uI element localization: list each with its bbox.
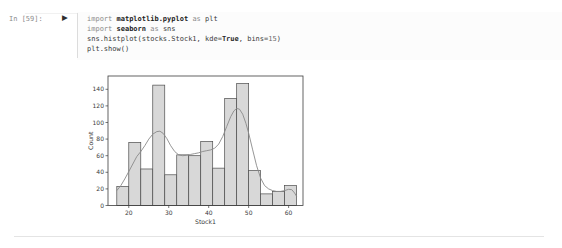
histogram-bar — [129, 142, 141, 205]
code-line: import seaborn as sns — [87, 24, 281, 34]
histogram-bar — [117, 186, 129, 205]
code-cell-left-border — [77, 13, 78, 58]
y-tick-label: 80 — [96, 135, 104, 142]
x-tick-label: 40 — [205, 209, 213, 216]
y-tick-label: 120 — [93, 102, 105, 109]
histogram-bar — [213, 168, 225, 205]
x-tick-label: 50 — [245, 209, 253, 216]
y-tick-label: 60 — [96, 152, 104, 159]
code-line: plt.show() — [87, 44, 281, 54]
y-tick-label: 0 — [100, 202, 104, 209]
histogram-bar — [273, 191, 285, 205]
y-tick-label: 20 — [96, 185, 104, 192]
histogram-bar — [177, 155, 189, 206]
x-axis-label: Stock1 — [195, 218, 216, 225]
histogram-bar — [141, 169, 153, 206]
histogram-bar — [153, 85, 165, 205]
histogram-bar — [261, 194, 273, 206]
histogram-bar — [225, 98, 237, 205]
code-line: import matplotlib.pyplot as plt — [87, 14, 281, 24]
cell-output-area: 2030405060020406080100120140Stock1Count — [85, 62, 315, 231]
histogram-bar — [237, 83, 249, 205]
histogram-bar — [285, 186, 297, 206]
code-line: sns.histplot(stocks.Stock1, kde=True, bi… — [87, 34, 281, 44]
y-tick-label: 100 — [93, 119, 105, 126]
histogram-bar — [189, 156, 201, 206]
run-cell-icon[interactable]: ▶ — [62, 13, 68, 23]
x-tick-label: 20 — [125, 209, 133, 216]
histogram-bar — [165, 175, 177, 206]
histogram-figure: 2030405060020406080100120140Stock1Count — [85, 62, 315, 227]
notebook-page: In [59]: ▶ import matplotlib.pyplot as p… — [0, 0, 562, 248]
y-tick-label: 40 — [96, 168, 104, 175]
x-tick-label: 30 — [165, 209, 173, 216]
y-axis-label: Count — [87, 131, 94, 150]
page-bottom-divider — [14, 236, 544, 237]
histogram-bar — [249, 171, 261, 206]
x-tick-label: 60 — [285, 209, 293, 216]
y-tick-label: 140 — [93, 85, 105, 92]
execution-prompt: In [59]: — [9, 14, 43, 24]
code-editor[interactable]: import matplotlib.pyplot as pltimport se… — [87, 14, 281, 54]
